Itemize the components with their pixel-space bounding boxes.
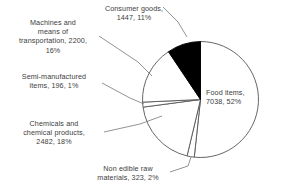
slice-label-food-items: Food items, 7038, 52% (206, 88, 276, 106)
slice-label-machines-transportation: Machines and means of transportation, 22… (8, 18, 98, 55)
slice-label-semi-manufactured: Semi-manufactured items, 196, 1% (4, 72, 104, 90)
leader-line-machines (99, 36, 152, 76)
leader-line-semi-manufactured (102, 83, 144, 104)
slice-label-non-edible-raw-materials: Non edible raw materials, 323, 2% (76, 164, 180, 182)
slice-label-chemicals: Chemicals and chemical products, 2482, 1… (4, 119, 104, 147)
pie-chart: Consumer goods, 1447, 11% Machines and m… (0, 0, 282, 195)
slice-label-consumer-goods: Consumer goods, 1447, 11% (86, 4, 182, 22)
